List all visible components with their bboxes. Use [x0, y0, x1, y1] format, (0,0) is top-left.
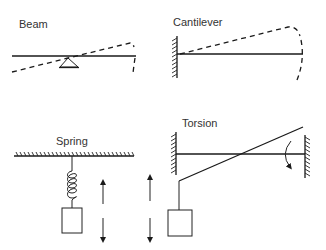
cantilever-label: Cantilever	[173, 16, 223, 28]
cantilever-deflected-line	[180, 27, 300, 54]
spring-motion-arrows	[103, 177, 150, 240]
hatched-wall-icon	[305, 135, 310, 178]
beam-panel: Beam	[12, 18, 136, 73]
spring-label: Spring	[56, 135, 88, 147]
beam-label: Beam	[19, 18, 48, 30]
square-mass-icon	[62, 208, 82, 233]
beam-swing-path	[133, 58, 135, 73]
hatched-wall-icon	[171, 132, 176, 175]
hatched-wall-icon	[172, 36, 177, 78]
coil-spring-icon	[68, 156, 77, 208]
torsion-panel: Torsion	[168, 117, 310, 236]
oscillation-types-diagram: Beam Cantilever	[0, 0, 326, 250]
cantilever-swing-path	[297, 40, 302, 80]
triangle-support-icon	[59, 58, 79, 68]
spring-panel: Spring	[14, 135, 150, 240]
square-mass-icon	[168, 210, 192, 236]
hatched-ceiling-icon	[14, 152, 134, 156]
cantilever-panel: Cantilever	[172, 16, 303, 80]
torsion-label: Torsion	[182, 117, 217, 129]
